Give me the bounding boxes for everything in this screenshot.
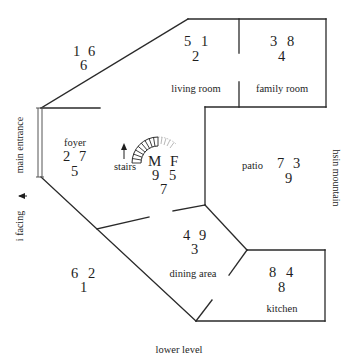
dining-num-1: 4 [183,227,191,243]
foyer-label: foyer [64,137,87,148]
main-entrance-label: main entrance [14,116,25,173]
stairs-num-2: 5 [169,167,176,183]
wall-kitchen-stub-upper [229,250,247,275]
dining-area-label: dining area [170,268,217,279]
stairs-arrow-icon [121,143,127,159]
wall-kitchen-stub-lower [196,300,212,321]
stairs-num-3: 7 [160,181,167,197]
kitchen-num-3: 8 [278,279,285,295]
foyer-num-2: 7 [79,148,86,164]
living-room-num-1: 5 [184,33,191,49]
main-entrance-door [36,108,44,177]
dining-num-2: 9 [199,227,206,243]
patio-num-2: 3 [293,155,300,171]
outside-bl-num-1: 6 [71,265,78,281]
hsin-mountain-label: hsin mountain [331,150,342,207]
wall-dining-upper-left [97,217,149,229]
foyer-num-3: 5 [71,163,78,179]
wall-top-diagonal [41,19,188,108]
wall-dining-upper-right [173,205,205,211]
kitchen-num-2: 4 [286,264,294,280]
living-room-num-3: 2 [192,48,199,64]
family-room-num-2: 8 [287,33,294,49]
kitchen-label: kitchen [267,303,299,314]
patio-num-3: 9 [285,170,292,186]
foyer-num-1: 2 [63,148,70,164]
patio-label: patio [242,160,263,171]
family-room-label: family room [256,83,308,94]
outside-bl-num-2: 2 [88,265,95,281]
outside-bl-num-3: 1 [80,279,87,295]
stairs-num-1: 9 [152,167,159,183]
facing-label: i facing [14,211,25,241]
wall-dining-right-diagonal [205,205,247,250]
living-room-num-2: 1 [201,33,208,49]
level-title: lower level [156,344,203,355]
facing-arrow-icon [18,193,27,199]
kitchen-num-1: 8 [269,264,276,280]
outside-tl-num-3: 6 [80,57,87,73]
living-room-label: living room [171,83,220,94]
stairs-label: stairs [114,161,136,172]
dining-num-3: 3 [191,241,198,257]
floor-plan: 1 6 6 5 1 2 living room 3 8 4 family roo… [0,0,359,359]
patio-num-1: 7 [277,155,284,171]
outside-tl-num-2: 6 [88,43,95,59]
wall-bottom-diagonal [41,177,196,321]
family-room-num-1: 3 [270,33,277,49]
family-room-num-3: 4 [278,48,286,64]
